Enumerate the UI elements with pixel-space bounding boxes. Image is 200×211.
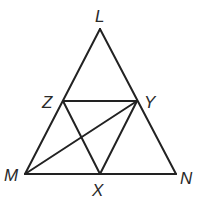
triangle-diagram: L Z Y M X N: [0, 0, 200, 211]
label-X: X: [91, 181, 104, 200]
label-Z: Z: [41, 93, 53, 112]
label-M: M: [4, 166, 19, 185]
label-L: L: [95, 7, 104, 26]
label-Y: Y: [144, 93, 157, 112]
label-N: N: [180, 169, 193, 188]
